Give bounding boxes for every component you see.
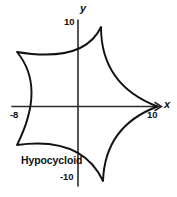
x-axis-tick-left: -8 [10,110,18,120]
hypocycloid-figure: y x 10 -10 -8 10 Hypocycloid [0,0,177,197]
y-axis-label: y [80,3,86,14]
y-axis-tick-bottom: -10 [60,172,73,182]
figure-canvas [0,0,177,197]
y-axis-tick-top: 10 [64,17,74,27]
x-axis-tick-right: 10 [147,110,157,120]
figure-caption: Hypocycloid [21,155,82,166]
x-axis-label: x [164,99,170,110]
